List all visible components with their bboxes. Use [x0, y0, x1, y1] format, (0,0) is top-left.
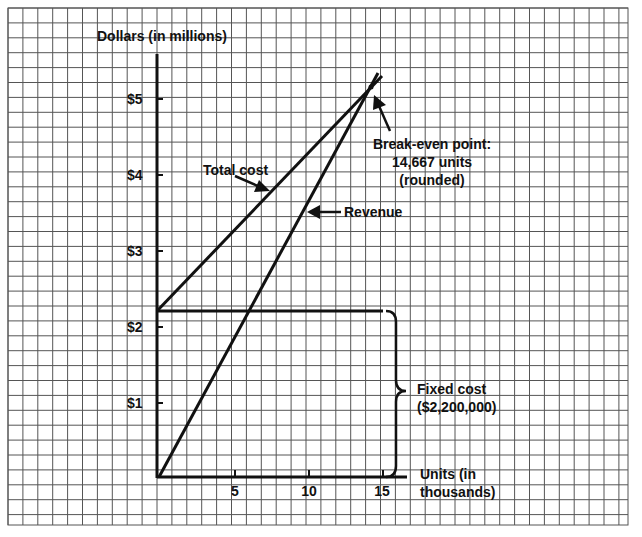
fixed-cost-label-line2: ($2,200,000): [417, 399, 496, 415]
x-tick-5: 5: [231, 483, 239, 499]
y-tick-1: $1: [127, 395, 143, 411]
x-axis: [157, 470, 407, 477]
x-tick-15: 15: [374, 483, 390, 499]
x-tick-10: 10: [301, 483, 317, 499]
x-axis-title-line2: thousands): [420, 484, 495, 500]
y-axis: [157, 54, 163, 478]
revenue-label: Revenue: [344, 204, 403, 220]
fixed-cost-label-line1: Fixed cost: [417, 381, 487, 397]
y-tick-2: $2: [127, 319, 143, 335]
break-even-label-line2: 14,667 units: [392, 154, 472, 170]
break-even-label-line3: (rounded): [399, 172, 464, 188]
x-axis-title-line1: Units (in: [420, 466, 476, 482]
break-even-point: [369, 85, 374, 90]
break-even-chart: Dollars (in millions) $5 $4 $3 $2 $1 5 1…: [0, 0, 642, 537]
y-tick-5: $5: [127, 91, 143, 107]
break-even-label-line1: Break-even point:: [373, 136, 491, 152]
y-tick-4: $4: [127, 167, 143, 183]
total-cost-label: Total cost: [203, 162, 268, 178]
total-cost-arrow: [235, 176, 270, 192]
grid-paper: [8, 8, 628, 525]
y-tick-3: $3: [127, 243, 143, 259]
break-even-arrow: [373, 95, 390, 131]
y-axis-title: Dollars (in millions): [97, 28, 227, 44]
